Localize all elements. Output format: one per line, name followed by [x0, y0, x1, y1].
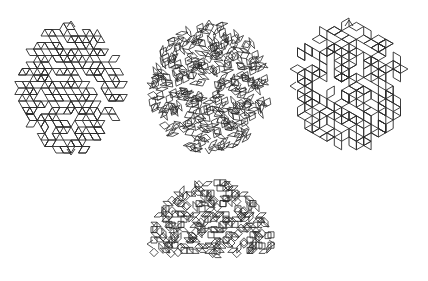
tiling-figure [0, 0, 428, 281]
figure-canvas [0, 0, 428, 281]
